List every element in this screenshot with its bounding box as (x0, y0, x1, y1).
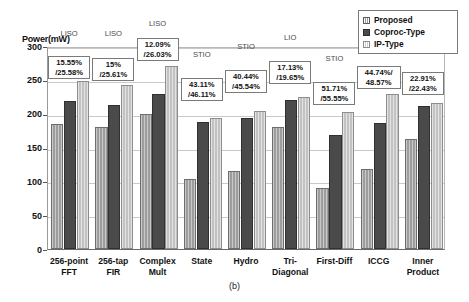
percentage-callout: 17.13% /19.65% (269, 61, 311, 84)
percentage-callout: 15% /25.61% (92, 58, 134, 81)
y-tick-mark (43, 149, 47, 150)
bar-proposed (316, 188, 328, 249)
bar-proposed (95, 127, 107, 249)
y-tick-mark (43, 216, 47, 217)
bar-proposed (272, 127, 284, 249)
y-tick-mark (43, 182, 47, 183)
y-tick-label: 300 (0, 43, 42, 52)
legend-item: Coproc-Type (363, 26, 453, 38)
bar-coproc (197, 122, 209, 249)
bar-ip (210, 118, 222, 249)
bar-ip (165, 66, 177, 249)
bar-coproc (418, 106, 430, 249)
bar-coproc (108, 105, 120, 249)
y-tick-label: 0 (0, 246, 42, 255)
bar-coproc (374, 123, 386, 249)
bar-ip (386, 94, 398, 249)
bar-proposed (228, 171, 240, 249)
y-tick-label: 50 (0, 212, 42, 221)
legend-item: Proposed (363, 14, 453, 26)
io-type-tag: LISO (93, 29, 133, 38)
bar-coproc (285, 100, 297, 249)
legend-item: IP-Type (363, 38, 453, 50)
y-tick-label: 250 (0, 76, 42, 85)
figure-caption: (b) (0, 281, 469, 291)
legend-label: IP-Type (374, 39, 404, 49)
bar-ip (77, 81, 89, 249)
x-axis-label: Inner Product (395, 256, 451, 278)
y-tick-mark (43, 250, 47, 251)
io-type-tag: LIO (270, 33, 310, 42)
bar-proposed (140, 114, 152, 249)
percentage-callout: 12.09% /26.03% (137, 38, 179, 61)
legend-label: Proposed (374, 15, 413, 25)
legend-label: Coproc-Type (374, 27, 425, 37)
bar-chart-figure: Power(mW) 050100150200250300 256-point F… (0, 0, 469, 302)
y-tick-mark (43, 81, 47, 82)
legend-swatch-icon (363, 41, 370, 48)
percentage-callout: 40.44% /45.54% (225, 70, 267, 93)
legend: ProposedCoproc-TypeIP-Type (358, 10, 458, 54)
bar-proposed (361, 169, 373, 249)
bar-ip (298, 97, 310, 249)
legend-swatch-icon (363, 29, 370, 36)
y-tick-label: 150 (0, 144, 42, 153)
bar-coproc (152, 94, 164, 249)
bar-proposed (51, 124, 63, 249)
y-tick-label: 100 (0, 178, 42, 187)
io-type-tag: STIO (314, 54, 354, 63)
bar-coproc (64, 101, 76, 249)
y-tick-mark (43, 115, 47, 116)
bar-coproc (329, 135, 341, 249)
io-type-tag: STIO (226, 42, 266, 51)
bar-proposed (184, 179, 196, 249)
bar-coproc (241, 118, 253, 249)
io-type-tag: LISO (49, 29, 89, 38)
percentage-callout: 43.11% /46.11% (181, 78, 223, 101)
percentage-callout: 22.91% /22.43% (402, 72, 444, 95)
bar-ip (121, 85, 133, 249)
bar-ip (254, 111, 266, 249)
bar-proposed (405, 139, 417, 249)
y-tick-label: 200 (0, 110, 42, 119)
percentage-callout: 15.55% /25.58% (48, 56, 90, 79)
legend-swatch-icon (363, 17, 370, 24)
bar-ip (431, 103, 443, 249)
y-tick-mark (43, 47, 47, 48)
io-type-tag: LISO (138, 19, 178, 28)
percentage-callout: 44.74%/ 48.57% (357, 66, 401, 89)
percentage-callout: 51.71% /55.55% (313, 82, 355, 105)
io-type-tag: STIO (182, 50, 222, 59)
bar-ip (342, 112, 354, 249)
